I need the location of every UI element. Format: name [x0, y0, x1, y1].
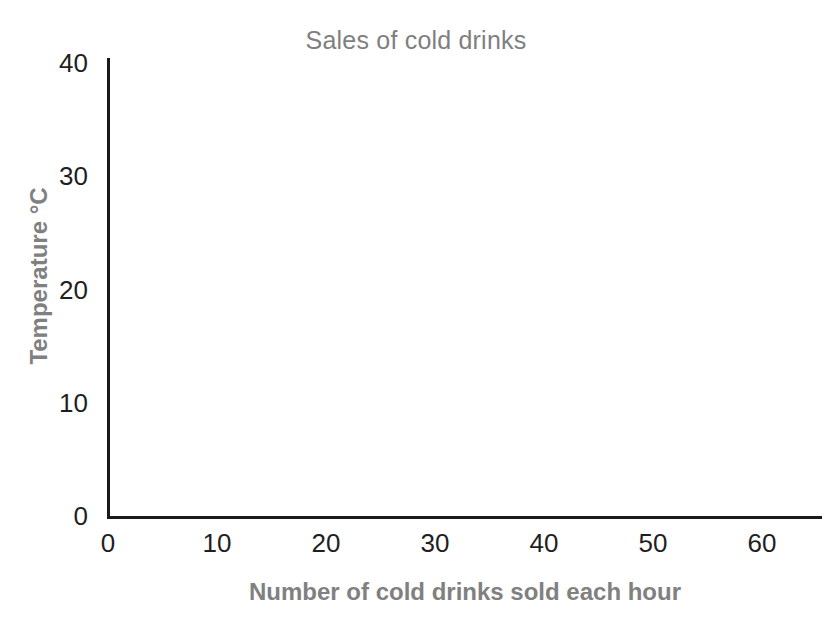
- x-tick-label: 10: [203, 528, 232, 559]
- x-axis-line: [107, 516, 822, 519]
- x-axis-title: Number of cold drinks sold each hour: [108, 578, 822, 606]
- y-axis-title: Temperature °C: [25, 126, 53, 426]
- data-series-layer: [108, 58, 822, 518]
- y-tick-label: 40: [28, 48, 88, 79]
- x-tick-label: 30: [421, 528, 450, 559]
- x-tick-label: 40: [530, 528, 559, 559]
- x-tick-label: 0: [101, 528, 115, 559]
- x-tick-label: 50: [639, 528, 668, 559]
- y-axis-line: [107, 58, 110, 519]
- plot-area: [108, 58, 822, 518]
- x-tick-label: 20: [312, 528, 341, 559]
- y-tick-label: 0: [28, 501, 88, 532]
- x-tick-label: 60: [748, 528, 777, 559]
- chart-title: Sales of cold drinks: [0, 26, 832, 55]
- chart-figure: Sales of cold drinks 0102030405060 01020…: [0, 0, 832, 634]
